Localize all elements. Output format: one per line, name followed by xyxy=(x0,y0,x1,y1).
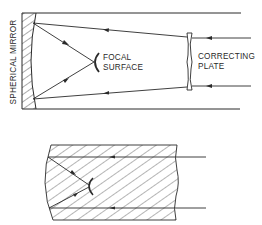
plate-label-line2: PLATE xyxy=(198,62,225,71)
arrow-icon xyxy=(62,40,69,45)
lower-diagram xyxy=(45,145,206,220)
ray-plate-to-mirror-bottom xyxy=(33,87,187,99)
upper-diagram: SPHERICAL MIRROR FOCAL SURFACE CORRECTIN… xyxy=(9,13,255,109)
arrow-icon xyxy=(206,36,212,40)
arrow-icon xyxy=(206,84,212,88)
glass-block xyxy=(45,145,178,220)
plate-label-line1: CORRECTING xyxy=(198,52,255,61)
focal-label-line2: SURFACE xyxy=(103,63,143,72)
focal-label-line1: FOCAL xyxy=(103,53,132,62)
spherical-mirror xyxy=(22,13,36,109)
arrow-icon xyxy=(103,28,109,32)
focal-surface xyxy=(95,53,99,72)
mirror-label: SPHERICAL MIRROR xyxy=(9,20,18,105)
ray-plate-to-mirror-top xyxy=(33,23,187,37)
schmidt-telescope-diagram: SPHERICAL MIRROR FOCAL SURFACE CORRECTIN… xyxy=(0,0,262,225)
correcting-plate xyxy=(187,33,192,90)
